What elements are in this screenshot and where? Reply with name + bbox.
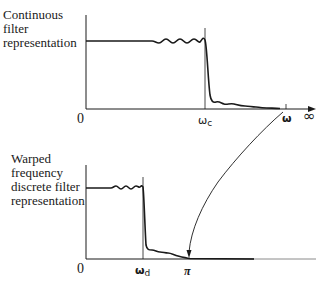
wc-symbol: ω [198, 114, 207, 127]
pi-label: π [184, 265, 191, 277]
top-cutoff-label: ωc [198, 115, 212, 129]
omega-label: ω [282, 113, 292, 125]
top-title-line-3: representation [3, 36, 77, 50]
bottom-title-line-3: discrete filter [11, 180, 85, 194]
top-title-line-2: filter [3, 22, 77, 36]
infinity-label: ∞ [303, 110, 316, 122]
wd-subscript: d [145, 268, 151, 278]
bottom-origin-label: 0 [77, 263, 84, 275]
top-title-line-1: Continuous [3, 8, 77, 22]
warping-arrow-curve [189, 112, 283, 252]
frequency-warping-arrow[interactable] [187, 112, 284, 258]
bottom-title-line-4: representation [11, 194, 85, 208]
bottom-panel-title: Warped frequency discrete filter represe… [11, 152, 85, 208]
bottom-title-line-1: Warped [11, 152, 85, 166]
warping-arrowhead-icon [187, 250, 192, 258]
top-panel-title: Continuous filter representation [3, 8, 77, 50]
wc-subscript: c [207, 118, 212, 128]
top-origin-label: 0 [77, 113, 84, 125]
wd-symbol: ω [135, 264, 145, 277]
continuous-filter-response-curve [86, 38, 280, 108]
top-panel-graph [86, 15, 316, 112]
bottom-cutoff-label: ωd [135, 265, 150, 279]
bottom-title-line-2: frequency [11, 166, 85, 180]
bottom-panel-graph [86, 165, 316, 259]
discrete-filter-response-curve [86, 186, 254, 259]
